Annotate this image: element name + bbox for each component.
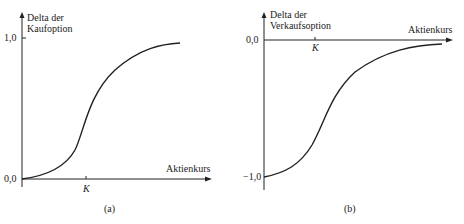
- ylabel-a-line2: Kaufoption: [27, 23, 73, 34]
- ylabel-b-line2: Verkaufsoption: [270, 20, 331, 31]
- x-axis-arrow-a: [205, 177, 212, 182]
- y-axis-arrow-a: [20, 12, 25, 18]
- ytick-bottom-b: −1,0: [243, 171, 261, 182]
- ytick-bottom-a: 0,0: [4, 173, 17, 184]
- xlabel-b: Aktienkurs: [408, 24, 452, 35]
- ylabel-a-line1: Delta der: [27, 12, 64, 23]
- xtick-k-label-a: K: [83, 183, 90, 194]
- x-axis-arrow-b: [446, 38, 453, 43]
- xtick-k-label-b: K: [312, 42, 319, 53]
- panel-label-b: (b): [344, 203, 356, 214]
- ytick-top-a: 1,0: [4, 32, 17, 43]
- chart-a: [20, 12, 213, 187]
- delta-put-curve: [264, 44, 442, 177]
- panel-label-a: (a): [104, 203, 115, 214]
- ytick-top-b: 0,0: [246, 34, 259, 45]
- xlabel-a: Aktienkurs: [166, 163, 210, 174]
- chart-b: [262, 12, 454, 190]
- delta-call-curve: [22, 43, 180, 179]
- ylabel-b-line1: Delta der: [270, 9, 307, 20]
- y-axis-arrow-b: [262, 12, 267, 18]
